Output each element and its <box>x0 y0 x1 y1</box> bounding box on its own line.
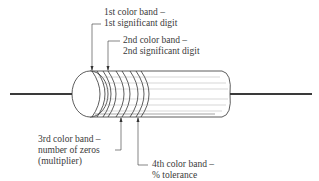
band3-label-line3: (multiplier) <box>38 156 101 167</box>
band1-label: 1st color band – 1st significant digit <box>104 7 177 29</box>
band3-label-line1: 3rd color band – <box>38 134 101 145</box>
band1-label-line1: 1st color band – <box>104 7 177 18</box>
band1-label-line2: 1st significant digit <box>104 18 177 29</box>
band4-label-line1: 4th color band – <box>152 159 214 170</box>
band2-label: 2nd color band – 2nd significant digit <box>123 35 200 57</box>
band2-label-line1: 2nd color band – <box>123 35 200 46</box>
band3-label: 3rd color band – number of zeros (multip… <box>38 134 101 167</box>
band3-label-line2: number of zeros <box>38 145 101 156</box>
band4-label: 4th color band – % tolerance <box>152 159 214 181</box>
band2-label-line2: 2nd significant digit <box>123 46 200 57</box>
band4-label-line2: % tolerance <box>152 170 214 181</box>
